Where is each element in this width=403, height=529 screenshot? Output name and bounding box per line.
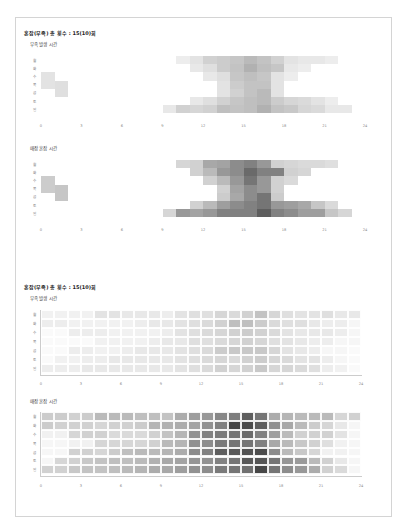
- heatmap-cell: [241, 465, 254, 474]
- y-axis-label: 목: [30, 82, 38, 87]
- heatmap-cell: [161, 412, 174, 421]
- heatmap-cell: [203, 176, 217, 184]
- heatmap-cell: [203, 56, 217, 64]
- heatmap-cell: [230, 209, 244, 217]
- heatmap-cell: [348, 319, 361, 328]
- y-axis-label: 토: [30, 357, 38, 362]
- chart-title-congestion-2: 매장 혼잡 시간: [30, 398, 57, 404]
- heatmap-cell: [230, 160, 244, 168]
- x-axis-tick: 3: [75, 124, 89, 128]
- heatmap-cell: [174, 355, 187, 364]
- heatmap-cell: [321, 319, 334, 328]
- x-axis-tick: 12: [194, 484, 208, 488]
- heatmap-cell: [257, 56, 271, 64]
- heatmap-cell: [41, 430, 54, 439]
- heatmap-cell: [284, 64, 298, 72]
- heatmap-cell: [321, 448, 334, 457]
- heatmap-cell: [54, 328, 67, 337]
- heatmap-cell: [190, 105, 204, 113]
- heatmap-cell: [294, 355, 307, 364]
- heatmap-cell: [298, 160, 312, 168]
- heatmap-cell: [348, 412, 361, 421]
- heatmap-cell: [294, 465, 307, 474]
- heatmap-cell: [148, 457, 161, 466]
- heatmap-cell: [201, 439, 214, 448]
- heatmap-cell: [176, 105, 190, 113]
- x-axis-tick: 0: [34, 484, 48, 488]
- heatmap-cell: [94, 457, 107, 466]
- heatmap-cell: [174, 364, 187, 373]
- heatmap-cell: [230, 193, 244, 201]
- heatmap-cell: [348, 337, 361, 346]
- y-axis-label: 금: [30, 450, 38, 455]
- x-axis-tick: 0: [34, 228, 48, 232]
- x-axis-tick: 0: [34, 382, 48, 386]
- heatmap-cell: [190, 209, 204, 217]
- heatmap-cell: [201, 430, 214, 439]
- heatmap-cell: [308, 457, 321, 466]
- heatmap-cell: [271, 72, 285, 80]
- heatmap-cell: [241, 430, 254, 439]
- heatmap-cell: [121, 355, 134, 364]
- heatmap-cell: [338, 209, 352, 217]
- section-title-1: 혼잡(부족) 총 횟수 : 15(10)회: [24, 29, 96, 36]
- heatmap-cell: [284, 160, 298, 168]
- heatmap-cell: [176, 160, 190, 168]
- x-axis-tick: 24: [358, 124, 372, 128]
- heatmap-cell: [68, 364, 81, 373]
- heatmap-cell: [214, 310, 227, 319]
- heatmap-cell: [121, 346, 134, 355]
- x-axis-tick: 18: [274, 484, 288, 488]
- heatmap-cell: [334, 421, 347, 430]
- heatmap-cell: [81, 430, 94, 439]
- heatmap-cell: [201, 310, 214, 319]
- chart-title-shortage-2: 부족 발생 시간: [30, 295, 57, 301]
- heatmap-cell: [134, 465, 147, 474]
- heatmap-cell: [190, 64, 204, 72]
- heatmap-cell: [161, 319, 174, 328]
- heatmap-cell: [190, 97, 204, 105]
- heatmap-cell: [284, 209, 298, 217]
- heatmap-cell: [190, 56, 204, 64]
- heatmap-cell: [294, 439, 307, 448]
- heatmap-cell: [334, 346, 347, 355]
- heatmap-cell: [334, 412, 347, 421]
- heatmap-cell: [308, 421, 321, 430]
- heatmap-cell: [54, 448, 67, 457]
- heatmap-cell: [244, 97, 258, 105]
- heatmap-cell: [325, 160, 339, 168]
- x-axis-tick: 12: [196, 228, 210, 232]
- heatmap-cell: [268, 421, 281, 430]
- heatmap-cell: [148, 364, 161, 373]
- heatmap-cell: [228, 346, 241, 355]
- heatmap-cell: [257, 201, 271, 209]
- heatmap-cell: [268, 346, 281, 355]
- heatmap-cell: [214, 439, 227, 448]
- heatmap-cell: [325, 201, 339, 209]
- heatmap-cell: [308, 346, 321, 355]
- heatmap-cell: [241, 412, 254, 421]
- heatmap-cell: [81, 448, 94, 457]
- heatmap-cell: [228, 355, 241, 364]
- y-axis-label: 화: [30, 321, 38, 326]
- heatmap-cell: [321, 364, 334, 373]
- heatmap-cell: [271, 97, 285, 105]
- heatmap-cell: [161, 364, 174, 373]
- heatmap-cell: [257, 64, 271, 72]
- heatmap-cell: [308, 319, 321, 328]
- heatmap-cell: [348, 310, 361, 319]
- heatmap-cell: [271, 64, 285, 72]
- heatmap-cell: [68, 355, 81, 364]
- heatmap-cell: [244, 176, 258, 184]
- heatmap-cell: [161, 346, 174, 355]
- heatmap-cell: [108, 319, 121, 328]
- heatmap-cell: [217, 97, 231, 105]
- heatmap-cell: [334, 430, 347, 439]
- heatmap-cell: [55, 81, 69, 89]
- heatmap-cell: [348, 346, 361, 355]
- heatmap-cell: [41, 412, 54, 421]
- heatmap-cell: [121, 421, 134, 430]
- heatmap-cell: [244, 89, 258, 97]
- heatmap-cell: [271, 56, 285, 64]
- x-axis-tick: 3: [74, 484, 88, 488]
